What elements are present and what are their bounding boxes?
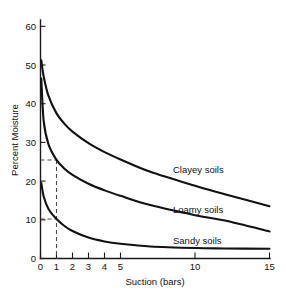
curve-clayey-soils: [41, 60, 269, 206]
y-tick-label-30: 30: [25, 137, 36, 148]
y-tick-label-10: 10: [25, 214, 36, 225]
x-tick-label-1: 1: [54, 261, 59, 272]
curve-loamy-soils: [41, 79, 269, 232]
y-tick-label-40: 40: [25, 98, 36, 109]
x-tick-label-10: 10: [190, 261, 201, 272]
series-label-loamy: Loamy soils: [173, 204, 223, 215]
x-tick-label-5: 5: [118, 261, 123, 272]
x-tick-label-2: 2: [70, 261, 75, 272]
curve-sandy-soils: [41, 183, 269, 249]
y-tick-label-60: 60: [25, 21, 36, 32]
x-axis-title: Suction (bars): [125, 276, 184, 287]
x-axis-tick-labels: 0 1 2 3 4 5 10 15: [38, 261, 275, 272]
data-curves: [41, 60, 269, 248]
soil-moisture-chart: 0 10 20 30 40 50 60 0 1 2 3 4 5 10: [0, 0, 286, 295]
x-tick-label-3: 3: [86, 261, 91, 272]
x-tick-label-4: 4: [102, 261, 107, 272]
y-axis-title: Percent Moisture: [9, 104, 20, 176]
y-tick-label-50: 50: [25, 60, 36, 71]
y-axis-tick-labels: 0 10 20 30 40 50 60: [25, 21, 36, 264]
x-tick-label-0: 0: [38, 261, 43, 272]
x-axis-ticks: [41, 253, 270, 259]
y-tick-label-0: 0: [31, 253, 36, 264]
series-label-sandy: Sandy soils: [173, 235, 222, 246]
y-tick-label-20: 20: [25, 176, 36, 187]
x-tick-label-15: 15: [264, 261, 275, 272]
chart-container: 0 10 20 30 40 50 60 0 1 2 3 4 5 10: [0, 0, 286, 295]
series-label-clayey: Clayey soils: [173, 164, 224, 175]
